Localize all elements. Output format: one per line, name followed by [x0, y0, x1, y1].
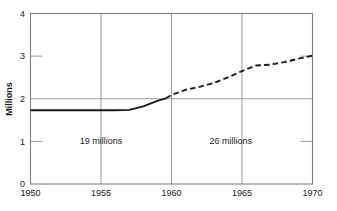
chart-background [0, 0, 337, 211]
x-tick-label: 1955 [91, 188, 111, 198]
annotation-right-note: 26 millions [209, 136, 252, 146]
y-tick-label: 4 [20, 9, 25, 19]
chart-container: 19501955196019651970 01234 19 millions26… [0, 0, 337, 211]
line-chart: 19501955196019651970 01234 19 millions26… [0, 0, 337, 211]
annotation-left-note: 19 millions [80, 136, 123, 146]
y-tick-label: 1 [20, 137, 25, 147]
x-tick-label: 1970 [302, 188, 322, 198]
y-axis-title: Millions [4, 82, 14, 116]
y-tick-label: 3 [20, 51, 25, 61]
y-tick-label: 2 [20, 94, 25, 104]
x-tick-label: 1960 [161, 188, 181, 198]
x-tick-label: 1965 [232, 188, 252, 198]
y-tick-label: 0 [20, 179, 25, 189]
x-tick-label: 1950 [20, 188, 40, 198]
